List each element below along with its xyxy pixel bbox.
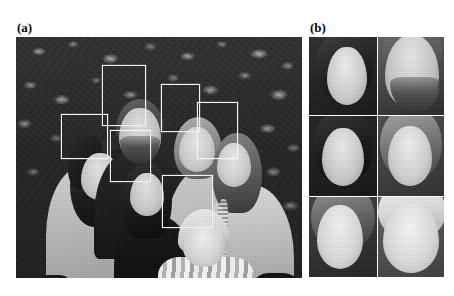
detection-box-woman-left bbox=[61, 114, 108, 159]
panel-b-label: (b) bbox=[310, 21, 326, 34]
figure-root: (a) bbox=[0, 0, 454, 296]
detection-box-girl-center bbox=[110, 130, 151, 182]
panel-a-label: (a) bbox=[17, 21, 32, 34]
crop-man-back-center bbox=[378, 37, 445, 116]
crop-3-face bbox=[322, 128, 364, 186]
crop-4-face bbox=[388, 126, 432, 186]
group-photo-scene bbox=[16, 37, 302, 278]
detection-box-child-front-center bbox=[162, 175, 213, 228]
detection-box-woman-back-right bbox=[161, 84, 200, 132]
detection-box-man-back-center bbox=[102, 65, 146, 126]
crop-child bbox=[378, 197, 445, 278]
panel-b-crop-grid bbox=[309, 37, 445, 278]
crop-6-face bbox=[383, 203, 439, 273]
crop-girl-right bbox=[309, 197, 378, 278]
crop-1-face bbox=[327, 47, 367, 105]
panel-a-photograph bbox=[16, 37, 302, 278]
detection-box-girl-right bbox=[197, 102, 238, 159]
crop-5-face bbox=[317, 205, 363, 269]
crop-girl-center bbox=[309, 116, 378, 197]
crop-woman-back-right bbox=[378, 116, 445, 197]
crop-woman-left bbox=[309, 37, 378, 116]
face-crop-grid bbox=[309, 37, 445, 278]
